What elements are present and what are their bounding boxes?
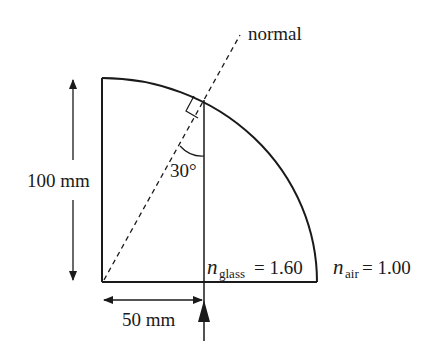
height-label: 100 mm [27, 170, 90, 191]
angle-arc [180, 146, 204, 156]
offset-label: 50 mm [122, 309, 176, 330]
glass-quadrant [102, 78, 317, 282]
n-air-label: n air = 1.00 [333, 255, 411, 281]
n-glass-label: n glass = 1.60 [207, 255, 303, 281]
svg-text:n: n [333, 255, 344, 279]
svg-text:glass: glass [219, 266, 245, 281]
normal-label: normal [248, 23, 302, 44]
svg-text:n: n [207, 255, 218, 279]
svg-text:air: air [345, 266, 359, 281]
normal-line [104, 35, 240, 280]
angle-label: 30° [170, 160, 197, 181]
curved-surface [102, 78, 317, 282]
svg-text:= 1.60: = 1.60 [254, 257, 303, 278]
incident-ray-arrowhead-icon [198, 300, 210, 322]
svg-text:= 1.00: = 1.00 [362, 257, 411, 278]
diagram-canvas: normal 30° 100 mm 50 mm n glass = 1.60 n… [0, 0, 440, 357]
